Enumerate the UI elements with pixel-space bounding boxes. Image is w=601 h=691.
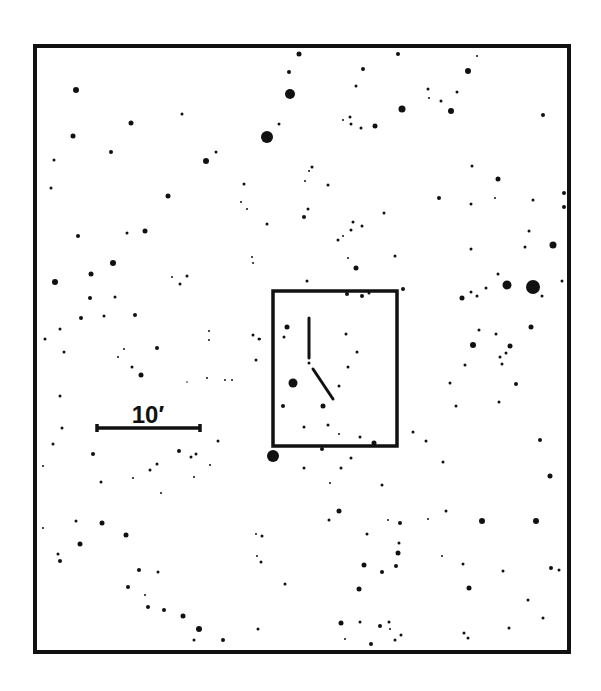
star <box>261 131 273 143</box>
star <box>337 239 340 242</box>
star <box>166 194 171 199</box>
star <box>347 366 350 369</box>
star <box>528 230 531 233</box>
star <box>465 68 471 74</box>
star <box>109 150 113 154</box>
star <box>356 351 359 354</box>
star <box>394 255 397 258</box>
star <box>350 229 353 232</box>
star <box>352 221 355 224</box>
star <box>355 85 358 88</box>
star <box>63 351 66 354</box>
star <box>428 97 430 99</box>
star <box>73 87 79 93</box>
star <box>502 570 505 573</box>
star <box>338 385 341 388</box>
star <box>440 100 443 103</box>
star <box>400 634 403 637</box>
star <box>252 334 255 337</box>
star <box>398 521 402 525</box>
star <box>181 614 186 619</box>
star <box>425 440 428 443</box>
star <box>126 585 130 589</box>
star <box>380 570 384 574</box>
star <box>445 510 448 513</box>
star <box>338 433 340 435</box>
star <box>549 566 553 570</box>
star <box>344 638 346 640</box>
star <box>441 555 443 557</box>
star <box>139 373 144 378</box>
star <box>427 88 430 91</box>
target-markers <box>309 318 333 399</box>
star <box>267 450 279 462</box>
star <box>79 316 83 320</box>
star <box>389 628 391 630</box>
star <box>42 527 44 529</box>
star <box>328 519 331 522</box>
star <box>155 346 159 350</box>
star <box>396 52 400 56</box>
star <box>442 461 445 464</box>
star <box>58 559 62 563</box>
star <box>287 70 291 74</box>
scale-label: 10′ <box>132 401 165 428</box>
star <box>448 108 454 114</box>
star <box>494 197 496 199</box>
star <box>508 627 511 630</box>
star <box>252 262 254 264</box>
star <box>186 275 189 278</box>
star <box>193 476 195 478</box>
star <box>558 569 561 572</box>
star <box>100 521 105 526</box>
star <box>538 438 542 442</box>
star <box>44 338 47 341</box>
star <box>124 533 129 538</box>
star <box>347 257 349 259</box>
star <box>255 359 258 362</box>
star <box>357 587 362 592</box>
star <box>340 467 343 470</box>
star <box>501 363 504 366</box>
star <box>412 431 415 434</box>
star <box>508 344 513 349</box>
star <box>53 159 56 162</box>
star <box>476 295 479 298</box>
star <box>360 294 364 298</box>
star <box>470 291 473 294</box>
star <box>524 246 527 249</box>
star <box>59 328 62 331</box>
star <box>243 183 246 186</box>
star <box>177 449 181 453</box>
star <box>117 356 119 358</box>
star <box>88 296 92 300</box>
star <box>61 427 64 430</box>
star <box>396 551 401 556</box>
star <box>157 571 160 574</box>
star <box>160 492 162 494</box>
star <box>303 426 306 429</box>
star <box>478 329 481 332</box>
star <box>260 561 263 564</box>
star <box>321 404 326 409</box>
star <box>208 339 210 341</box>
star <box>266 223 269 226</box>
star <box>427 518 429 520</box>
star <box>78 542 83 547</box>
star <box>190 456 193 459</box>
star <box>394 639 397 642</box>
star <box>297 52 302 57</box>
star <box>327 424 330 427</box>
star <box>256 555 258 557</box>
star <box>548 474 553 479</box>
star <box>362 563 367 568</box>
star <box>221 638 225 642</box>
star <box>42 465 44 467</box>
star <box>231 379 233 381</box>
star <box>251 256 253 258</box>
star <box>144 594 146 596</box>
star <box>110 260 116 266</box>
star <box>76 234 80 238</box>
finder-chart: 10′ <box>0 0 601 691</box>
star <box>359 621 362 624</box>
